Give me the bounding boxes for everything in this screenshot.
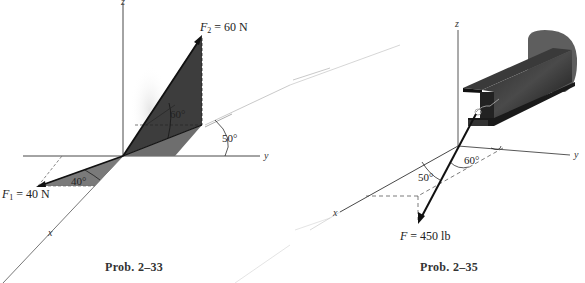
caption-prob-2-33: Prob. 2–33 (105, 260, 163, 275)
x-axis-label-2: x (333, 207, 337, 218)
force-f2-label: F2 = 60 N (200, 21, 248, 35)
angle-40-label: 40° (71, 175, 86, 187)
force-f1-label: F1 = 40 N (2, 188, 50, 202)
y-axis-label-2: y (574, 149, 578, 160)
z-axis-label-2: z (455, 18, 459, 29)
figure-prob-2-35 (290, 30, 577, 230)
force-f-arrow (421, 114, 476, 218)
force-f-label: F = 450 lb (400, 230, 450, 242)
i-beam (463, 48, 575, 126)
diagram-canvas (0, 0, 585, 283)
angle-60-label-2: 60° (464, 154, 479, 166)
y-axis-label: y (264, 150, 268, 161)
angle-60-label: 60° (170, 108, 185, 120)
x-axis-2 (340, 146, 458, 212)
angle-50-label: 50° (222, 132, 237, 144)
guide-line (205, 85, 290, 125)
angle-50-label-2: 50° (418, 171, 433, 183)
figure-prob-2-33 (3, 3, 290, 283)
x-axis-label: x (48, 227, 52, 238)
caption-prob-2-35: Prob. 2–35 (420, 260, 478, 275)
z-axis-label: z (121, 0, 125, 7)
